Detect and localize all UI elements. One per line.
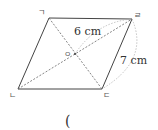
measurement-7cm: 7 cm bbox=[120, 54, 148, 67]
parallelogram-diagram: ㄱ ㄹ ㄴ ㄷ ㅇ 6 cm 7 cm ( bbox=[0, 0, 158, 130]
measurement-6cm: 6 cm bbox=[74, 25, 102, 38]
vertex-label-bottom-left: ㄴ bbox=[9, 91, 16, 100]
center-label: ㅇ bbox=[64, 50, 71, 59]
vertex-label-bottom-right: ㄷ bbox=[103, 91, 110, 100]
vertex-label-top-left: ㄱ bbox=[38, 8, 45, 17]
vertex-label-top-right: ㄹ bbox=[134, 11, 141, 20]
center-point bbox=[74, 53, 76, 55]
answer-blank-paren: ( bbox=[65, 113, 70, 129]
